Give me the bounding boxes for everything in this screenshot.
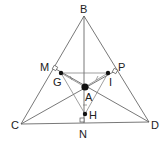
point-g-dot [59,71,63,75]
segment-i-a [85,73,108,87]
label-a: A [85,91,93,103]
label-h: H [89,109,97,121]
geometry-diagram: B C D M P N G I A H [0,0,168,143]
label-b: B [80,3,87,15]
label-c: C [11,119,19,131]
point-h-dot [83,112,87,116]
point-a-dot [81,83,88,90]
right-angle-marker-n [80,118,84,122]
segment-c-p [21,71,115,124]
label-d: D [151,119,159,131]
segment-d-m [54,68,149,122]
label-g: G [53,76,62,88]
point-i-dot [106,71,110,75]
label-p: P [118,61,125,73]
segment-g-a [61,73,85,87]
label-i: I [109,76,112,88]
label-m: M [40,61,49,73]
label-n: N [79,128,87,140]
